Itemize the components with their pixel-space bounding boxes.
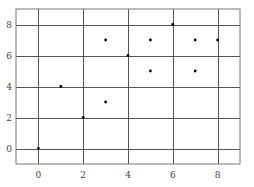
x-tick-label: 0	[36, 170, 42, 180]
data-point	[171, 23, 174, 26]
y-tick-label: 6	[6, 51, 12, 61]
y-tick-label: 8	[6, 20, 12, 30]
y-axis-tick-labels: 02468	[6, 20, 12, 154]
x-tick-label: 4	[125, 170, 131, 180]
data-point	[149, 39, 152, 42]
x-tick-label: 8	[215, 170, 221, 180]
scatter-chart: 02468 02468	[0, 0, 254, 187]
data-point	[82, 116, 85, 119]
data-point	[194, 39, 197, 42]
data-point	[59, 85, 62, 88]
data-point	[104, 39, 107, 42]
y-tick-label: 4	[6, 82, 12, 92]
plot-area: 02468 02468	[0, 0, 254, 187]
data-point	[37, 147, 40, 150]
grid-lines	[16, 9, 240, 164]
x-tick-label: 6	[170, 170, 176, 180]
data-point	[216, 39, 219, 42]
data-point	[194, 70, 197, 73]
data-point	[104, 101, 107, 104]
data-point	[149, 70, 152, 73]
y-tick-label: 2	[6, 113, 12, 123]
x-axis-tick-labels: 02468	[36, 170, 221, 180]
x-tick-label: 2	[80, 170, 86, 180]
y-tick-label: 0	[6, 144, 12, 154]
data-point	[127, 54, 130, 57]
